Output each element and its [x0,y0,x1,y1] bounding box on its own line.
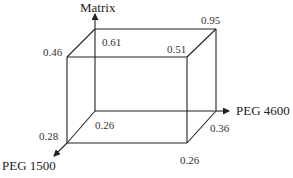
cube-diagram: Matrix PEG 4600 PEG 1500 0.46 0.61 0.51 … [0,0,293,178]
vertex-front-bottom-right-value: 0.26 [180,154,200,166]
matrix-axis-label: Matrix [80,0,116,15]
vertex-back-top-left-value: 0.61 [102,36,121,48]
peg1500-axis-label: PEG 1500 [2,158,56,173]
vertex-front-top-right-value: 0.51 [167,43,186,55]
vertex-back-bottom-right-value: 0.36 [210,122,230,134]
vertex-back-bottom-left-value: 0.26 [95,119,115,131]
cube-depth-edges [67,29,216,143]
peg1500-axis-arrow [54,143,67,156]
vertex-front-top-left-value: 0.46 [43,46,63,58]
vertex-back-top-right-value: 0.95 [201,14,221,26]
peg4600-axis-label: PEG 4600 [236,103,290,118]
cube-front-face [67,57,187,143]
vertex-front-bottom-left-value: 0.28 [39,130,59,142]
